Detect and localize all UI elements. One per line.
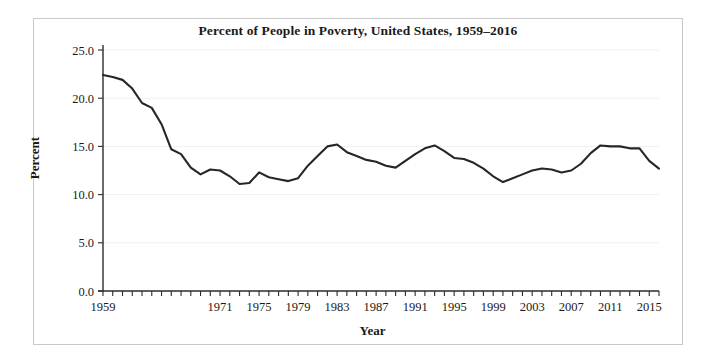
y-tick-label: 0.0 bbox=[78, 285, 94, 299]
gridlines bbox=[103, 50, 659, 243]
x-tick-label: 2003 bbox=[520, 300, 545, 314]
x-tick-label: 2007 bbox=[559, 300, 584, 314]
y-tick-label: 25.0 bbox=[72, 44, 94, 58]
x-tick-label: 1979 bbox=[286, 300, 311, 314]
data-series-line bbox=[103, 75, 659, 184]
plot-area: 0.05.010.015.020.025.0 19591971197519791… bbox=[0, 0, 714, 363]
y-axis-tick-labels: 0.05.010.015.020.025.0 bbox=[72, 44, 94, 299]
y-tick-label: 5.0 bbox=[78, 236, 94, 250]
x-tick-label: 2011 bbox=[598, 300, 623, 314]
x-axis-tick-marks bbox=[103, 291, 659, 296]
chart-figure: Percent of People in Poverty, United Sta… bbox=[0, 0, 714, 363]
x-tick-label: 1971 bbox=[208, 300, 233, 314]
y-axis-tick-marks bbox=[98, 50, 103, 291]
x-tick-label: 1995 bbox=[442, 300, 467, 314]
x-tick-label: 1991 bbox=[403, 300, 428, 314]
x-tick-label: 2015 bbox=[637, 300, 662, 314]
y-tick-label: 20.0 bbox=[72, 92, 94, 106]
x-axis-tick-labels: 1959197119751979198319871991199519992003… bbox=[91, 300, 662, 314]
y-tick-label: 15.0 bbox=[72, 140, 94, 154]
x-tick-label: 1983 bbox=[325, 300, 350, 314]
y-tick-label: 10.0 bbox=[72, 188, 94, 202]
x-tick-label: 1959 bbox=[91, 300, 116, 314]
x-tick-label: 1975 bbox=[247, 300, 272, 314]
x-tick-label: 1999 bbox=[481, 300, 506, 314]
x-tick-label: 1987 bbox=[364, 300, 389, 314]
